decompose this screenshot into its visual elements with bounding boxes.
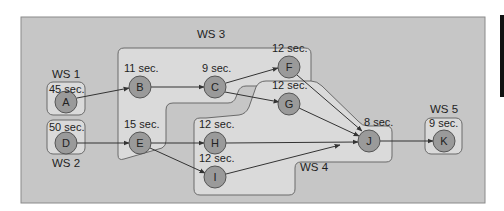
node-label: B xyxy=(136,81,143,93)
workstation-label-ws4: WS 4 xyxy=(300,161,329,173)
workstation-label-ws2: WS 2 xyxy=(52,157,80,169)
node-label: K xyxy=(440,135,448,147)
workstation-label-ws5: WS 5 xyxy=(430,103,458,115)
node-time: 15 sec. xyxy=(124,118,159,130)
node-time: 50 sec. xyxy=(49,121,84,133)
node-time: 8 sec. xyxy=(364,116,393,128)
node-label: I xyxy=(213,171,216,183)
node-label: G xyxy=(285,98,294,110)
node-time: 9 sec. xyxy=(202,62,231,74)
workstation-label-ws3: WS 3 xyxy=(197,28,225,40)
node-time: 9 sec. xyxy=(429,117,458,129)
node-label: D xyxy=(62,137,70,149)
node-time: 12 sec. xyxy=(199,118,234,130)
node-time: 11 sec. xyxy=(124,62,159,74)
node-time: 12 sec. xyxy=(272,79,307,91)
node-label: C xyxy=(211,81,219,93)
page-edge-tab xyxy=(500,15,504,97)
workstation-label-ws1: WS 1 xyxy=(52,68,80,80)
node-label: H xyxy=(211,137,219,149)
node-time: 12 sec. xyxy=(199,152,234,164)
node-time: 45 sec. xyxy=(49,83,84,95)
node-label: E xyxy=(136,137,143,149)
node-label: F xyxy=(286,61,293,73)
node-label: A xyxy=(62,96,70,108)
node-label: J xyxy=(366,135,372,147)
precedence-diagram: WS 1 WS 2 WS 3 WS 4 WS 5 A 45 sec. B 11 … xyxy=(0,0,504,211)
node-time: 12 sec. xyxy=(272,42,307,54)
